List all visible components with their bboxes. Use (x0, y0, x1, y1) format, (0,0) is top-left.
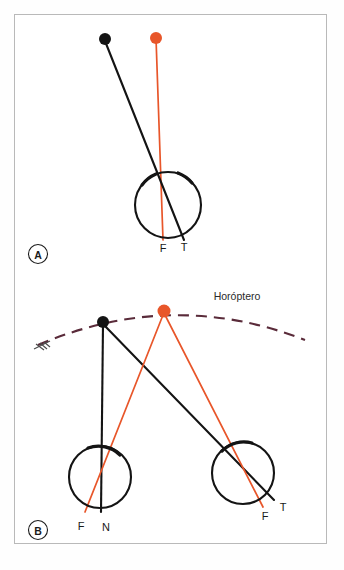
panel-b-eye-cornea-left (88, 446, 120, 455)
panel-b-label-N-left: N (102, 521, 110, 533)
panel-b-black-ray-right (104, 325, 274, 500)
panel-b-orange-ray-right (165, 315, 263, 507)
panel-b-label-F-left: F (78, 520, 85, 532)
panel-b-orange-target-dot (158, 305, 171, 318)
panel-b-horopter-label: Horóptero (214, 290, 261, 302)
panel-b-label-T-right: T (280, 501, 287, 513)
panel-a-orange-ray (156, 38, 163, 240)
panel-a-black-target-dot (99, 33, 111, 45)
figure-root: F T A (0, 0, 344, 570)
panel-b-letter-badge: B (29, 521, 48, 540)
panel-b-letter: B (34, 525, 42, 537)
panel-a-letter-badge: A (29, 245, 48, 264)
panel-b-label-F-right: F (262, 510, 269, 522)
panel-b-horopter-arc (38, 315, 305, 345)
panel-a-eye-cornea-right (178, 173, 192, 183)
panel-a-black-ray (105, 41, 184, 240)
panel-a-label-T: T (181, 241, 188, 253)
panel-b: Horóptero F N F T B (29, 290, 306, 540)
panel-a-label-F: F (160, 242, 167, 254)
panel-a-orange-target-dot (150, 32, 162, 44)
panel-b-black-ray-left (101, 324, 103, 512)
panel-a-letter: A (34, 249, 42, 261)
panel-a-eye-cornea-left (142, 174, 156, 185)
figure-canvas: F T A (0, 0, 344, 570)
panel-a: F T A (29, 32, 202, 264)
panel-b-black-target-dot (97, 316, 109, 328)
panel-b-eye-circle-left (69, 446, 131, 508)
